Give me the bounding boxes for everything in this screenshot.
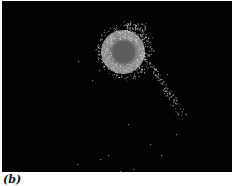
micrograph-panel [2,1,232,172]
particle-image [2,1,232,172]
panel-label: (b) [3,173,21,186]
inner-core [113,41,135,63]
